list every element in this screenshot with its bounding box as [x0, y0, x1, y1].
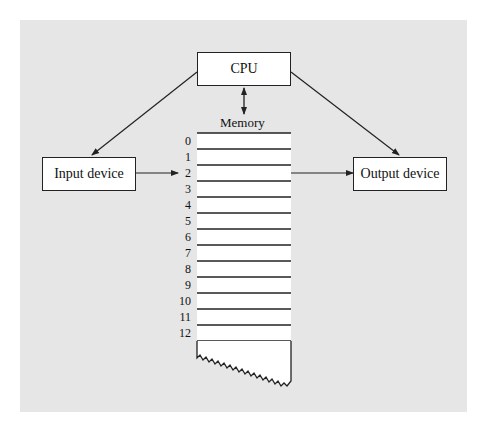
address-10: 10: [167, 294, 191, 309]
memory-label: Memory: [220, 115, 265, 131]
output-device-box: Output device: [353, 157, 447, 191]
memory-zigzag-edge: [197, 341, 291, 386]
address-9: 9: [167, 278, 191, 293]
input-device-label: Input device: [54, 166, 124, 182]
address-1: 1: [167, 150, 191, 165]
address-7: 7: [167, 246, 191, 261]
address-0: 0: [167, 134, 191, 149]
input-device-box: Input device: [42, 157, 136, 191]
address-3: 3: [167, 182, 191, 197]
cpu-box: CPU: [197, 52, 291, 86]
address-4: 4: [167, 198, 191, 213]
address-8: 8: [167, 262, 191, 277]
cpu-label: CPU: [230, 61, 257, 77]
address-2: 2: [167, 166, 191, 181]
address-5: 5: [167, 214, 191, 229]
address-6: 6: [167, 230, 191, 245]
address-11: 11: [167, 310, 191, 325]
address-12: 12: [167, 326, 191, 341]
output-device-label: Output device: [361, 166, 440, 182]
